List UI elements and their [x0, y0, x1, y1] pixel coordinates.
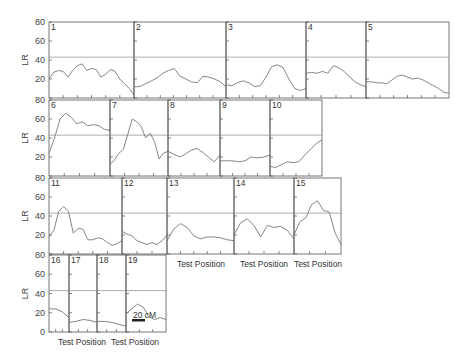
lr-curve	[220, 155, 270, 162]
chromosome-panel-8: 8	[168, 100, 220, 176]
panel-frame	[168, 100, 220, 176]
y-tick-label: 40	[35, 289, 45, 299]
chromosome-panel-16: 16	[49, 255, 69, 332]
chromosome-label: 1	[51, 22, 56, 32]
lr-curve	[49, 309, 69, 318]
chromosome-label: 2	[136, 22, 141, 32]
lr-curve	[168, 148, 220, 161]
chromosome-panel-5: 5	[366, 22, 449, 98]
panel-frame	[234, 178, 294, 254]
panel-frame	[110, 100, 168, 176]
lr-curve	[49, 64, 134, 95]
y-tick-label: 60	[35, 192, 45, 202]
lr-curve	[110, 119, 168, 165]
lr-curve	[366, 75, 449, 93]
chromosome-label: 18	[99, 255, 109, 265]
panel-frame	[49, 22, 134, 98]
linkage-chart: 20406080LR1234520406080LR67891020406080L…	[0, 0, 473, 360]
chromosome-label: 10	[272, 100, 282, 110]
chart-row: 20406080LR1112131415	[20, 173, 341, 254]
panel-frame	[294, 178, 341, 254]
lr-curve	[167, 224, 234, 241]
y-tick-label: 60	[35, 114, 45, 124]
y-tick-label: 40	[35, 133, 45, 143]
panel-frame	[69, 255, 97, 332]
panel-frame	[134, 22, 226, 98]
panel-frame	[122, 178, 167, 254]
chromosome-label: 9	[222, 100, 227, 110]
scale-bar: 20 cM	[132, 310, 156, 322]
y-tick-label: 20	[35, 152, 45, 162]
chromosome-label: 5	[368, 22, 373, 32]
y-tick-label: 80	[35, 173, 45, 183]
chromosome-label: 7	[112, 100, 117, 110]
y-tick-label: 20	[35, 74, 45, 84]
y-tick-label: 60	[35, 36, 45, 46]
panel-frame	[306, 22, 366, 98]
scale-bar-label: 20 cM	[133, 310, 156, 320]
y-axis-label: LR	[20, 210, 30, 222]
chromosome-panel-7: 7	[110, 100, 168, 176]
chromosome-panel-12: 12	[122, 178, 167, 254]
y-tick-label: 20	[35, 230, 45, 240]
chromosome-panel-18: 18	[97, 255, 126, 332]
chromosome-panel-15: 15	[294, 178, 341, 254]
lr-curve	[306, 66, 366, 87]
chart-panels: 20406080LR1234520406080LR67891020406080L…	[20, 17, 449, 337]
chromosome-panel-2: 2	[134, 22, 226, 98]
lr-curve	[69, 320, 97, 323]
chromosome-panel-11: 11	[49, 178, 122, 254]
chromosome-label: 14	[236, 178, 246, 188]
chromosome-panel-3: 3	[226, 22, 306, 98]
x-axis-label: Test Position	[240, 259, 288, 269]
panel-frame	[226, 22, 306, 98]
chart-row: 20406080LR12345	[20, 17, 449, 98]
panel-frame	[220, 100, 270, 176]
chromosome-label: 12	[124, 178, 134, 188]
lr-curve	[122, 231, 167, 244]
lr-curve	[134, 69, 226, 87]
lr-curve	[234, 219, 294, 239]
chromosome-label: 3	[228, 22, 233, 32]
y-tick-label: 20	[35, 308, 45, 318]
chromosome-label: 8	[170, 100, 175, 110]
chromosome-label: 19	[128, 255, 138, 265]
chromosome-label: 15	[296, 178, 306, 188]
x-axis-label: Test Position	[177, 259, 225, 269]
chromosome-label: 16	[51, 255, 61, 265]
panel-frame	[167, 178, 234, 254]
lr-curve	[49, 113, 110, 153]
chromosome-label: 6	[51, 100, 56, 110]
chromosome-label: 13	[169, 178, 179, 188]
lr-curve	[270, 140, 322, 168]
panel-frame	[49, 178, 122, 254]
y-tick-label: 80	[35, 250, 45, 260]
chromosome-label: 4	[308, 22, 313, 32]
chromosome-panel-4: 4	[306, 22, 366, 98]
x-axis-label: Test Position	[111, 337, 159, 347]
x-axis-label: Test Position	[58, 337, 106, 347]
y-tick-label: 60	[35, 269, 45, 279]
y-axis-label: LR	[20, 132, 30, 144]
y-tick-label: 40	[35, 55, 45, 65]
y-tick-label: 80	[35, 95, 45, 105]
panel-frame	[366, 22, 449, 98]
chromosome-panel-1: 1	[49, 22, 134, 98]
lr-curve	[49, 207, 122, 246]
panel-frame	[49, 100, 110, 176]
chromosome-panel-13: 13	[167, 178, 234, 254]
y-tick-label: 40	[35, 211, 45, 221]
lr-curve	[226, 65, 306, 91]
x-axis-label: Test Position	[294, 259, 342, 269]
chromosome-panel-6: 6	[49, 100, 110, 176]
chromosome-panel-14: 14	[234, 178, 294, 254]
panel-frame	[270, 100, 322, 176]
chromosome-label: 17	[71, 255, 81, 265]
y-axis-label: LR	[20, 54, 30, 66]
chromosome-panel-10: 10	[270, 100, 322, 176]
y-axis-label: LR	[20, 287, 30, 299]
chromosome-panel-9: 9	[220, 100, 270, 176]
chromosome-panel-17: 17	[69, 255, 97, 332]
lr-curve	[294, 201, 341, 245]
chart-row: 020406080LR16171819	[20, 250, 166, 337]
